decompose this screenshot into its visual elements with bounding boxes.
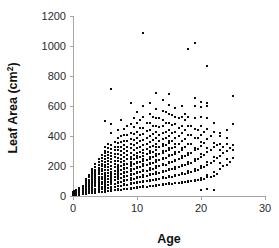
data-point-marker [117, 137, 119, 139]
data-point-marker [149, 156, 151, 158]
data-point-marker [203, 178, 205, 180]
data-point-marker [120, 181, 122, 183]
data-point-marker [133, 182, 135, 184]
data-point-marker [98, 183, 100, 185]
data-point-marker [98, 176, 100, 178]
data-point-marker [146, 137, 148, 139]
data-point-marker [168, 104, 170, 106]
data-point-marker [149, 141, 151, 143]
data-point-marker [171, 132, 173, 134]
data-point-marker [158, 178, 160, 180]
data-point-marker [136, 161, 138, 163]
data-point-marker [130, 163, 132, 165]
data-point-marker [162, 183, 164, 185]
data-point-marker [123, 140, 125, 142]
data-point-marker [149, 152, 151, 154]
data-point-marker [155, 131, 157, 133]
data-point-marker [158, 172, 160, 174]
data-point-marker [101, 188, 103, 190]
data-point-marker [152, 145, 154, 147]
data-point-marker [155, 143, 157, 145]
data-point-marker [190, 162, 192, 164]
data-point-marker [194, 117, 196, 119]
data-point-marker [174, 182, 176, 184]
data-point-marker [155, 178, 157, 180]
data-point-marker [155, 117, 157, 119]
data-point-marker [114, 189, 116, 191]
data-point-marker [126, 125, 128, 127]
data-point-marker [174, 146, 176, 148]
data-point-marker [203, 131, 205, 133]
data-point-marker [213, 160, 215, 162]
data-point-marker [130, 123, 132, 125]
data-point-marker [91, 174, 93, 176]
data-point-marker [123, 163, 125, 165]
data-point-marker [171, 161, 173, 163]
data-point-marker [139, 156, 141, 158]
data-point-marker [168, 147, 170, 149]
data-point-marker [216, 173, 218, 175]
data-point-marker [139, 161, 141, 163]
data-point-marker [114, 183, 116, 185]
data-point-marker [139, 176, 141, 178]
data-point-marker [91, 172, 93, 174]
data-point-marker [117, 153, 119, 155]
data-point-marker [126, 179, 128, 181]
data-point-marker [136, 155, 138, 157]
data-point-marker [110, 182, 112, 184]
data-point-marker [213, 122, 215, 124]
data-point-marker [104, 146, 106, 148]
data-point-marker [114, 179, 116, 181]
data-point-marker [136, 186, 138, 188]
data-point-marker [206, 102, 208, 104]
data-point-marker [91, 179, 93, 181]
data-point-marker [130, 173, 132, 175]
data-point-marker [120, 154, 122, 156]
data-point-marker [200, 189, 202, 191]
data-point-marker [155, 137, 157, 139]
data-point-marker [181, 164, 183, 166]
data-point-marker [187, 143, 189, 145]
data-point-marker [142, 32, 144, 34]
data-point-marker [126, 134, 128, 136]
data-point-marker [136, 176, 138, 178]
data-point-marker [213, 189, 215, 191]
data-point-marker [110, 161, 112, 163]
data-point-marker [187, 170, 189, 172]
data-point-marker [136, 131, 138, 133]
data-point-marker [152, 125, 154, 127]
data-point-marker [155, 171, 157, 173]
data-point-marker [123, 134, 125, 136]
data-point-marker [133, 154, 135, 156]
data-point-marker [181, 140, 183, 142]
data-point-marker [110, 155, 112, 157]
data-point-marker [136, 152, 138, 154]
data-point-marker [110, 186, 112, 188]
data-point-marker [174, 116, 176, 118]
data-point-marker [210, 149, 212, 151]
data-point-marker [165, 183, 167, 185]
data-point-marker [130, 165, 132, 167]
data-point-marker [219, 135, 221, 137]
data-point-marker [139, 134, 141, 136]
data-point-marker [110, 132, 112, 134]
data-point-marker [123, 144, 125, 146]
data-point-marker [174, 159, 176, 161]
data-point-marker [162, 163, 164, 165]
data-point-marker [168, 168, 170, 170]
data-point-marker [91, 178, 93, 180]
data-point-marker [101, 178, 103, 180]
data-point-marker [200, 153, 202, 155]
data-point-marker [120, 141, 122, 143]
data-point-marker [171, 154, 173, 156]
data-point-marker [216, 144, 218, 146]
data-point-marker [104, 187, 106, 189]
data-point-marker [120, 185, 122, 187]
data-point-marker [152, 151, 154, 153]
data-point-marker [98, 186, 100, 188]
data-point-marker [181, 132, 183, 134]
data-point-marker [73, 190, 75, 192]
data-point-marker [155, 155, 157, 157]
data-point-marker [130, 102, 132, 104]
data-point-marker [203, 142, 205, 144]
